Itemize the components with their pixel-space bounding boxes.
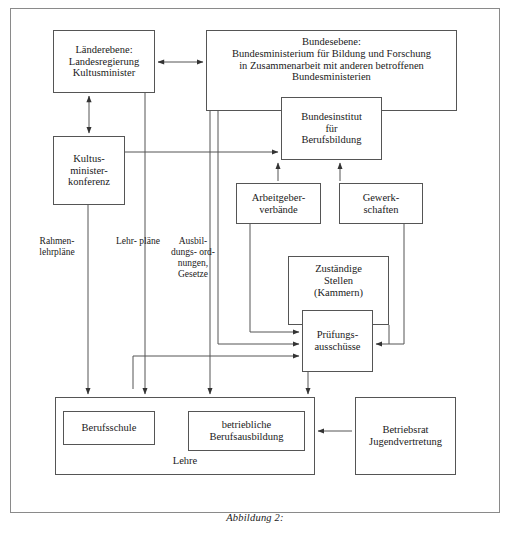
flow-label-rahmenlehrplaene-line2: lehrpläne (39, 247, 74, 257)
flow-label-ausbildungsordnungen: Ausbil- dungs- ord- nungen, Gesetze (168, 236, 218, 280)
node-arbeitgeberverbaende[interactable]: Arbeitgeber- verbände (236, 183, 321, 224)
node-gewerkschaften-line2: schaften (363, 204, 400, 216)
node-bundesinstitut-line3: Berufsbildung (301, 134, 362, 146)
node-zustaendige-line2: Stellen (314, 275, 363, 287)
node-arbeitgeber-line2: verbände (252, 204, 305, 216)
flow-label-rahmenlehrplaene: Rahmen- lehrpläne (24, 236, 90, 258)
flow-label-rahmenlehrplaene-line1: Rahmen- (40, 236, 75, 246)
node-pruefung-line1: Prüfungs- (314, 329, 360, 341)
flow-label-lehrplaene-line2: pläne (139, 236, 160, 246)
node-betriebliche-line2: Berufsausbildung (209, 431, 283, 443)
flow-label-ausbildungsordnungen-line2: dungs- (171, 247, 197, 257)
figure-caption: Abbildung 2: (0, 512, 510, 523)
node-bundesinstitut[interactable]: Bundesinstitut für Berufsbildung (281, 97, 382, 160)
node-laenderebene-line1: Länderebene: (69, 44, 140, 56)
node-bundesebene-line3: in Zusammenarbeit mit anderen betroffene… (232, 60, 431, 72)
node-gewerkschaften-line1: Gewerk- (363, 192, 400, 204)
node-zustaendige-line1: Zuständige (314, 263, 363, 275)
node-kmk-line2: minister- (68, 165, 110, 177)
node-betriebliche-berufsausbildung[interactable]: betriebliche Berufsausbildung (188, 411, 305, 451)
node-betriebsrat-line2: Jugendvertretung (369, 436, 442, 448)
node-kultusministerkonferenz[interactable]: Kultus- minister- konferenz (53, 136, 125, 205)
node-betriebliche-line1: betriebliche (209, 419, 283, 431)
node-betriebsrat-line1: Betriebsrat (369, 424, 442, 436)
node-bundesinstitut-line1: Bundesinstitut (301, 111, 362, 123)
flow-label-ausbildungsordnungen-line3: ord- (199, 247, 215, 257)
node-berufsschule[interactable]: Berufsschule (63, 411, 155, 445)
flow-label-ausbildungsordnungen-line1: Ausbil- (179, 236, 208, 246)
node-lehre-label: Lehre (173, 455, 197, 467)
node-betriebsrat[interactable]: Betriebsrat Jugendvertretung (355, 397, 456, 475)
node-bundesinstitut-line2: für (301, 123, 362, 135)
node-bundesebene-line1: Bundesebene: (232, 36, 431, 48)
node-bundesebene-line4: Bundesministerien (232, 71, 431, 83)
node-gewerkschaften[interactable]: Gewerk- schaften (339, 183, 423, 224)
node-laenderebene[interactable]: Länderebene: Landesregierung Kultusminis… (53, 30, 155, 93)
flow-label-lehrplaene: Lehr- pläne (113, 236, 163, 247)
flow-label-ausbildungsordnungen-line4: nungen, (178, 258, 208, 268)
figure-canvas: Länderebene: Landesregierung Kultusminis… (0, 0, 510, 533)
node-bundesebene-line2: Bundesministerium für Bildung und Forsch… (232, 48, 431, 60)
node-zustaendige-line3: (Kammern) (314, 287, 363, 299)
node-berufsschule-label: Berufsschule (82, 422, 137, 434)
node-kmk-line3: konferenz (68, 176, 110, 188)
node-laenderebene-line2: Landesregierung (69, 56, 140, 68)
flow-label-ausbildungsordnungen-line5: Gesetze (178, 269, 208, 279)
node-pruefung-line2: ausschüsse (314, 341, 360, 353)
flow-label-lehrplaene-line1: Lehr- (116, 236, 137, 246)
node-arbeitgeber-line1: Arbeitgeber- (252, 192, 305, 204)
node-pruefungsausschuesse[interactable]: Prüfungs- ausschüsse (302, 310, 373, 372)
node-kmk-line1: Kultus- (68, 153, 110, 165)
node-laenderebene-line3: Kultusminister (69, 67, 140, 79)
